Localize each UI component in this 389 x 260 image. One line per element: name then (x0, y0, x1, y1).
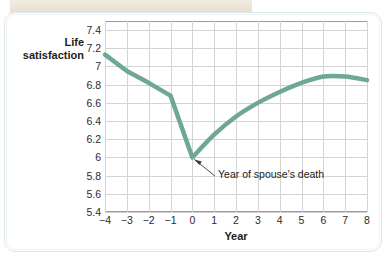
x-axis-tick-labels: −4−3−2−1012345678 (105, 214, 367, 230)
life-satisfaction-line (105, 55, 367, 158)
y-axis-tick-label: 5.6 (60, 188, 101, 200)
y-axis-tick-label: 7.4 (60, 24, 101, 36)
x-axis-title: Year (105, 230, 367, 242)
gridline-horizontal (105, 212, 367, 213)
y-axis-tick-label: 7 (60, 60, 101, 72)
data-line-overlay (105, 21, 367, 212)
annotation-label: Year of spouse's death (218, 168, 324, 180)
y-axis-tick-label: 7.2 (60, 42, 101, 54)
y-axis-tick-label: 6 (60, 151, 101, 163)
y-axis-tick-label: 6.4 (60, 115, 101, 127)
y-axis-tick-label: 5.8 (60, 170, 101, 182)
y-axis-tick-label: 6.2 (60, 133, 101, 145)
y-axis-tick-label: 6.8 (60, 79, 101, 91)
figure-container: Life satisfaction 7.47.276.86.66.46.265.… (0, 0, 389, 260)
x-axis-tick-label: 8 (354, 214, 380, 226)
y-axis-tick-labels: 7.47.276.86.66.46.265.85.65.4 (60, 21, 101, 212)
gridline-vertical (367, 21, 368, 212)
y-axis-tick-label: 6.6 (60, 97, 101, 109)
